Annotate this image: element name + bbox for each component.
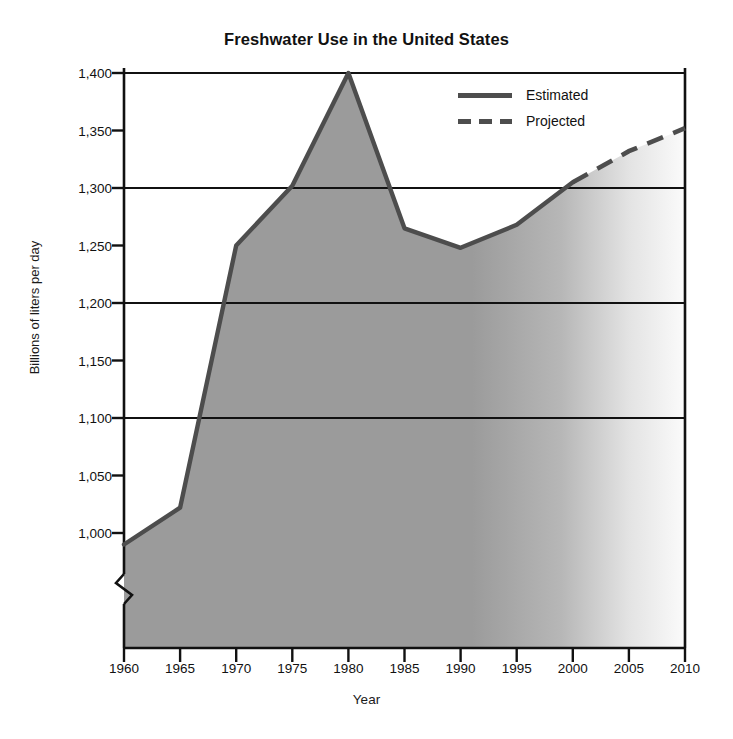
legend-label: Estimated (526, 87, 588, 103)
legend-item: Estimated (458, 82, 678, 108)
dashed-line-icon (458, 119, 512, 124)
solid-line-icon (458, 93, 512, 98)
chart-legend: EstimatedProjected (458, 82, 678, 134)
area-fill (124, 73, 685, 648)
legend-label: Projected (526, 113, 585, 129)
y-axis-ticks (112, 73, 124, 533)
chart-figure: Freshwater Use in the United States Bill… (0, 0, 733, 739)
x-axis-ticks (124, 648, 685, 662)
legend-item: Projected (458, 108, 678, 134)
